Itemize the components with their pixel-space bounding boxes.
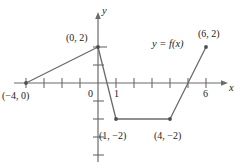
- point-label-4-neg2: (4, −2): [154, 131, 181, 141]
- point-label-neg4-0: (−4, 0): [2, 91, 29, 101]
- point-label-0-2: (0, 2): [66, 33, 88, 43]
- point-label-1-neg2: (1, −2): [99, 131, 126, 141]
- x-axis: [14, 80, 228, 86]
- figure-canvas: x y 0 1 6 (−4, 0) (0, 2) (1, −2) (4, −2)…: [0, 0, 246, 167]
- y-axis-label: y: [102, 6, 107, 17]
- point-label-6-2: (6, 2): [198, 29, 220, 39]
- x-tick-label-6: 6: [203, 89, 208, 99]
- x-axis-label: x: [229, 83, 234, 94]
- function-equation-label: y = f(x): [152, 39, 184, 50]
- origin-tick-label: 0: [88, 89, 93, 99]
- x-tick-label-1: 1: [114, 89, 119, 99]
- function-graph-svg: [0, 0, 246, 167]
